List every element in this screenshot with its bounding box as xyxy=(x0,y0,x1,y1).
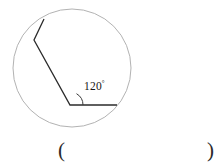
angle-measure-value: 120 xyxy=(84,80,102,92)
answer-close-paren: ) xyxy=(207,136,214,165)
answer-open-paren: ( xyxy=(58,136,65,165)
angle-measure-label: 120° xyxy=(84,80,105,92)
degree-symbol-icon: ° xyxy=(102,79,105,87)
angle-arc-icon xyxy=(77,94,84,105)
answer-row: ( ) xyxy=(0,136,224,165)
circle-outline xyxy=(13,9,131,127)
